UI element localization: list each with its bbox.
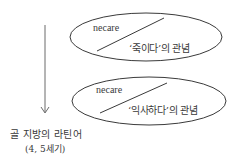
down-arrow-icon	[41, 25, 49, 113]
source-period-label: (4, 5세기)	[25, 142, 65, 155]
source-language-label: 골 지방의 라틴어	[10, 126, 82, 141]
stage-2-word: necare	[96, 84, 122, 95]
stage-2-meaning: ‘익사하다’의 관념	[128, 102, 198, 117]
stage-1-meaning: ‘죽이다’의 관념	[129, 40, 190, 55]
stage-1-word: necare	[93, 22, 119, 33]
